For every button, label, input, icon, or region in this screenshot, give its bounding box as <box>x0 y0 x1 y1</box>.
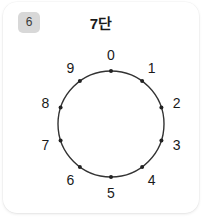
dial-number-label[interactable]: 9 <box>67 61 75 75</box>
dial-dot[interactable] <box>159 106 163 110</box>
dial-dot[interactable] <box>78 79 82 83</box>
dial-number-label[interactable]: 0 <box>107 48 115 62</box>
dial-number-label[interactable]: 3 <box>173 138 181 152</box>
dial-dot[interactable] <box>109 175 113 179</box>
dial-number-label[interactable]: 6 <box>67 173 75 187</box>
dial-ring <box>58 71 164 177</box>
dial-dot[interactable] <box>159 138 163 142</box>
dial-number-label[interactable]: 5 <box>107 186 115 200</box>
dial-dot[interactable] <box>140 165 144 169</box>
number-circle-dial: 0123456789 <box>3 2 199 213</box>
dial-number-label[interactable]: 4 <box>148 173 156 187</box>
dial-number-label[interactable]: 1 <box>148 61 156 75</box>
dial-dot[interactable] <box>59 106 63 110</box>
dial-number-label[interactable]: 8 <box>41 96 49 110</box>
dial-dot[interactable] <box>109 69 113 73</box>
dial-number-label[interactable]: 2 <box>173 96 181 110</box>
dial-dot[interactable] <box>78 165 82 169</box>
dial-number-label[interactable]: 7 <box>41 138 49 152</box>
dial-svg <box>3 2 199 213</box>
lesson-card: 6 7단 0123456789 <box>3 2 199 213</box>
dial-dot[interactable] <box>59 138 63 142</box>
dial-dot[interactable] <box>140 79 144 83</box>
